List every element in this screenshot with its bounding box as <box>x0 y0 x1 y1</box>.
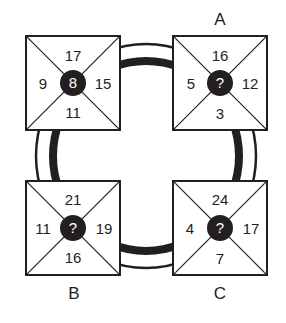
value-right: 19 <box>88 221 120 237</box>
value-left: 11 <box>27 221 59 237</box>
label-b: B <box>59 285 89 303</box>
box-a: 16 5 12 3 ? <box>172 35 268 131</box>
value-bottom: 3 <box>204 106 236 122</box>
value-top: 17 <box>57 48 89 64</box>
value-left: 5 <box>175 76 207 92</box>
value-right: 17 <box>235 221 267 237</box>
unknown-center-value: ? <box>207 215 233 241</box>
value-top: 16 <box>204 48 236 64</box>
value-bottom: 11 <box>57 105 89 121</box>
box-b: 21 11 19 16 ? <box>25 180 121 276</box>
box-top-left: 17 9 15 11 8 <box>25 35 121 131</box>
value-left: 9 <box>27 76 59 92</box>
center-value: 8 <box>60 70 86 96</box>
value-top: 24 <box>204 192 236 208</box>
value-bottom: 7 <box>204 251 236 267</box>
label-a: A <box>205 11 235 29</box>
value-left: 4 <box>174 221 206 237</box>
unknown-center-value: ? <box>60 215 86 241</box>
value-right: 15 <box>87 76 119 92</box>
value-right: 12 <box>234 76 266 92</box>
value-bottom: 16 <box>57 250 89 266</box>
unknown-center-value: ? <box>207 70 233 96</box>
box-c: 24 4 17 7 ? <box>172 180 268 276</box>
label-c: C <box>205 285 235 303</box>
value-top: 21 <box>57 192 89 208</box>
